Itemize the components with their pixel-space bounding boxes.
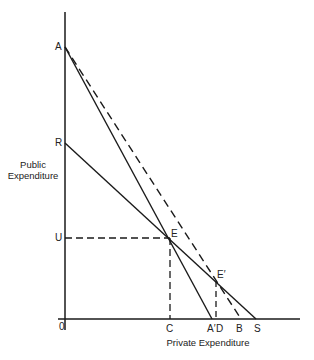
label-b: B [236, 324, 243, 334]
label-e-prime: E′ [217, 270, 226, 280]
y-axis-title-line2: Expenditure [2, 171, 64, 182]
label-origin: 0 [59, 322, 65, 332]
y-axis-title: Public Expenditure [2, 160, 64, 182]
label-r: R [55, 138, 62, 148]
label-d: D [216, 324, 223, 334]
line-a-b-dashed [65, 47, 241, 319]
label-a: A [55, 42, 62, 52]
label-e: E [171, 229, 178, 239]
label-c: C [166, 324, 173, 334]
label-a-prime: A′ [207, 324, 216, 334]
line-a-aprime [65, 47, 212, 319]
x-axis-title: Private Expenditure [148, 338, 268, 349]
label-s: S [254, 324, 261, 334]
line-r-s [65, 143, 256, 319]
label-u: U [55, 233, 62, 243]
